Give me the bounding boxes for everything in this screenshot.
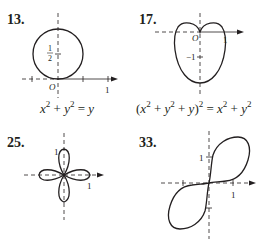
x-tick-label: 1 [231, 190, 236, 200]
equation-17: (x2 + y2 + y)2 = x2 + y2 [136, 101, 251, 117]
y-tick-label: 1 [199, 153, 204, 163]
x-tick-label: 1 [223, 35, 228, 45]
graph-33: 1 1 [0, 123, 265, 246]
y-tick-label: −1 [186, 52, 196, 62]
arrow-icon [237, 30, 244, 35]
arrow-icon [249, 181, 256, 186]
figure-33: 33. 1 1 [0, 123, 265, 246]
origin-label: O [192, 33, 199, 43]
figure-17: 17. O 1 −1 (x2 + y2 + y)2 = x2 + y2 [0, 0, 265, 123]
